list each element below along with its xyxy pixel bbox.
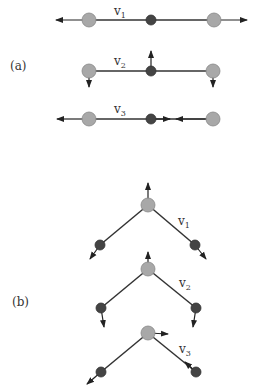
linear-mode-v3: v3 [57, 102, 220, 126]
linear-mode-v2: v2 [82, 51, 220, 87]
mode-label-a-v3: v3 [113, 102, 126, 118]
vibration-modes-diagram: v1 v2 v3 v1 [0, 0, 254, 391]
mode-label-b-v3: v3 [178, 342, 191, 358]
mode-label-a-v2: v2 [113, 54, 126, 70]
linear-mode-v1: v1 [56, 4, 247, 27]
mode-label-b-v1: v1 [177, 214, 190, 230]
mode-label-b-v2: v2 [178, 276, 191, 292]
mode-label-a-v1: v1 [113, 4, 126, 20]
bent-mode-v2: v2 [96, 252, 201, 327]
bent-mode-v1: v1 [90, 183, 206, 259]
bent-mode-v3: v3 [87, 326, 201, 384]
